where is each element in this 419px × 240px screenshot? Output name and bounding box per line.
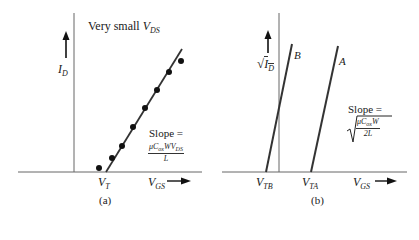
b-x-axis-label: VGS bbox=[353, 176, 370, 191]
a-slope-label: Slope = bbox=[149, 128, 183, 139]
b-threshold-b-label: VTB bbox=[256, 176, 273, 191]
b-caption: (b) bbox=[311, 194, 324, 206]
b-y-axis-label: √ID bbox=[257, 57, 274, 73]
a-y-axis-label: ID bbox=[58, 63, 68, 78]
a-right-arrow-icon bbox=[167, 178, 191, 185]
b-slope-label: Slope = bbox=[348, 104, 382, 115]
b-line-a bbox=[311, 46, 338, 172]
b-line-b-label: B bbox=[294, 50, 301, 61]
b-right-arrow-icon bbox=[375, 178, 397, 185]
a-title: Very small VDS bbox=[88, 20, 160, 35]
b-threshold-a-label: VTA bbox=[302, 176, 318, 191]
a-caption: (a) bbox=[99, 194, 111, 206]
b-slope-fraction: μCoxW 2L bbox=[356, 118, 380, 138]
a-slope-fraction: μCoxWVDS L bbox=[148, 143, 184, 163]
a-threshold-label: VT bbox=[98, 176, 110, 191]
b-line-a-label: A bbox=[339, 56, 346, 67]
a-up-arrow-icon bbox=[63, 31, 70, 58]
a-x-axis-label: VGS bbox=[148, 176, 165, 191]
b-up-arrow-icon bbox=[265, 30, 272, 53]
